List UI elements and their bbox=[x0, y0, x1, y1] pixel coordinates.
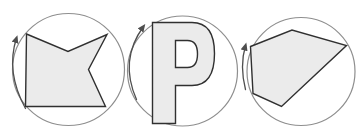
rotation-diagram bbox=[0, 0, 356, 138]
rotation-arrow bbox=[129, 27, 143, 100]
diagram-canvas bbox=[0, 0, 356, 138]
panel-star-polygon bbox=[13, 14, 125, 126]
panel-pentagon bbox=[243, 18, 356, 126]
letter-p-shape bbox=[153, 23, 215, 124]
rotation-arrow bbox=[13, 38, 26, 109]
panel-letter-p bbox=[128, 16, 238, 126]
rotation-arrow bbox=[243, 46, 246, 90]
pentagon-shape bbox=[251, 30, 347, 107]
star-polygon-shape bbox=[26, 34, 108, 107]
